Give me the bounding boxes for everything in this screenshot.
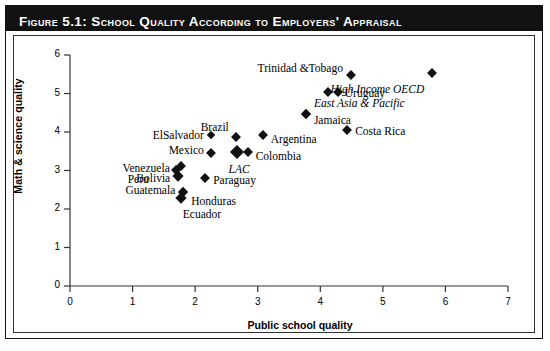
data-point-label: Brazil <box>201 121 229 133</box>
data-point-label: Paraguay <box>213 174 256 186</box>
data-point-label: Guatemala <box>125 184 175 196</box>
data-point-label: East Asia & Pacific <box>314 97 405 109</box>
y-tick-label: 5 <box>46 87 60 98</box>
data-point-label: Colombia <box>256 150 301 162</box>
x-tick-label: 5 <box>373 296 393 307</box>
data-point-label: ElSalvador <box>153 129 204 141</box>
y-tick-label: 3 <box>46 164 60 175</box>
x-tick-label: 1 <box>123 296 143 307</box>
y-tick-label: 6 <box>46 48 60 59</box>
y-tick-label: 4 <box>46 125 60 136</box>
data-point-label: Jamaica <box>314 114 351 126</box>
y-tick-label: 2 <box>46 202 60 213</box>
data-point-label: Bolivia <box>136 172 170 184</box>
y-tick-label: 1 <box>46 241 60 252</box>
y-axis-label: Math & science quality <box>12 56 24 216</box>
data-point-label: Argentina <box>271 133 317 145</box>
data-point-label: Trinidad &Tobago <box>258 62 343 74</box>
x-tick-label: 7 <box>498 296 518 307</box>
y-tick-label: 0 <box>46 279 60 290</box>
x-tick-label: 3 <box>248 296 268 307</box>
data-point-label: Ecuador <box>183 208 221 220</box>
x-tick-label: 0 <box>60 296 80 307</box>
x-tick-label: 4 <box>310 296 330 307</box>
x-tick-label: 6 <box>435 296 455 307</box>
figure-page: Figure 5.1: School Quality According to … <box>0 0 550 351</box>
data-point-label: Costa Rica <box>355 125 405 137</box>
axis-lines <box>0 0 550 351</box>
x-axis-label: Public school quality <box>150 319 450 331</box>
data-point-label: Mexico <box>169 144 204 156</box>
x-tick-label: 2 <box>185 296 205 307</box>
data-point-label: Honduras <box>191 195 236 207</box>
